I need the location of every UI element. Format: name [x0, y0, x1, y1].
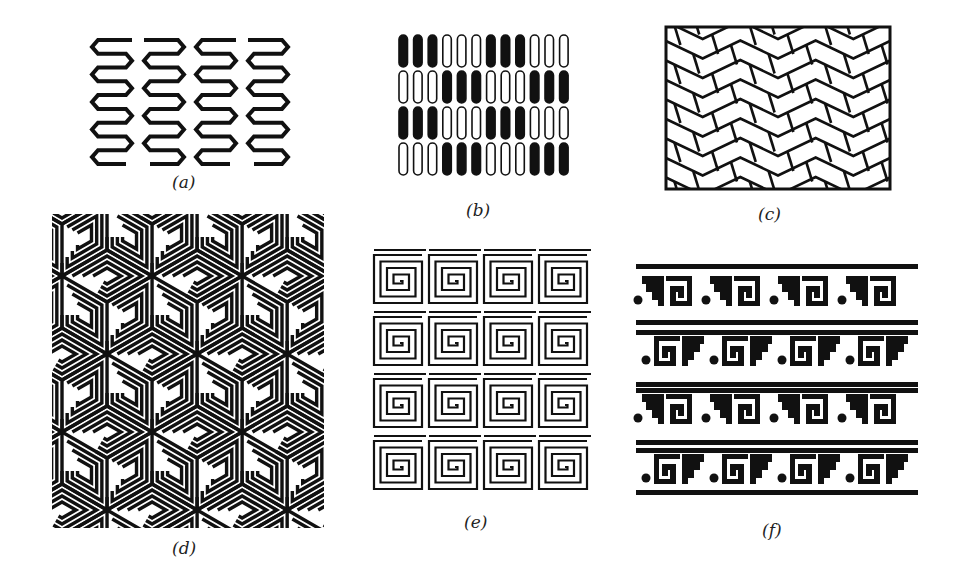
stepped-fret-motif — [642, 336, 705, 366]
panel-b — [395, 33, 575, 183]
spiral-cube — [62, 406, 152, 510]
filled-bar — [516, 107, 525, 139]
stepped-fret-motif — [634, 276, 693, 306]
zigzag-strips-figure — [88, 38, 298, 168]
filled-bar — [472, 71, 481, 103]
square-spiral-tile — [484, 250, 536, 303]
stepped-fret-motif — [838, 276, 897, 306]
caption-f: (f) — [762, 520, 782, 540]
filled-bar — [501, 107, 510, 139]
filled-bar — [414, 35, 423, 67]
square-spiral-tile — [429, 436, 481, 489]
panel-d — [52, 214, 324, 528]
square-spiral-tile — [539, 312, 591, 365]
filled-bar — [414, 107, 423, 139]
panel-f — [636, 264, 920, 496]
filled-bar — [428, 35, 437, 67]
stepped-fret-motif — [778, 454, 841, 484]
stepped-fret-motif — [710, 336, 773, 366]
square-spiral-grid-figure — [372, 248, 594, 498]
filled-bar — [443, 71, 452, 103]
square-spiral-tile — [429, 250, 481, 303]
stepped-fret-frieze-figure — [636, 264, 920, 496]
outlined-bar — [487, 143, 496, 175]
square-spiral-tile — [374, 436, 426, 489]
filled-bar — [457, 71, 466, 103]
filled-bar — [399, 107, 408, 139]
outlined-bar — [457, 107, 466, 139]
spiral-cube — [197, 328, 287, 432]
filled-bar — [545, 143, 554, 175]
spiral-cube — [152, 406, 242, 510]
spiral-cube — [152, 250, 242, 354]
stepped-fret-motif — [634, 394, 693, 424]
spiral-cube — [107, 328, 197, 432]
filled-bar — [457, 143, 466, 175]
filled-bar — [560, 71, 569, 103]
outlined-bar — [560, 35, 569, 67]
stepped-fret-motif — [770, 394, 829, 424]
filled-bar — [530, 143, 539, 175]
stepped-fret-motif — [778, 336, 841, 366]
caption-a: (a) — [172, 172, 195, 192]
bar-grid-figure — [395, 33, 575, 183]
caption-b: (b) — [466, 200, 490, 220]
spiral-cube — [197, 214, 287, 276]
outlined-bar — [501, 71, 510, 103]
stepped-fret-motif — [846, 336, 909, 366]
square-spiral-tile — [374, 374, 426, 427]
outlined-bar — [487, 71, 496, 103]
stepped-fret-motif — [642, 454, 705, 484]
stepped-fret-motif — [838, 394, 897, 424]
outlined-bar — [516, 143, 525, 175]
outlined-bar — [457, 35, 466, 67]
filled-bar — [560, 143, 569, 175]
outlined-bar — [545, 35, 554, 67]
outlined-bar — [414, 143, 423, 175]
caption-e: (e) — [464, 512, 487, 532]
stepped-fret-motif — [770, 276, 829, 306]
outlined-bar — [414, 71, 423, 103]
panel-e — [372, 248, 594, 498]
outlined-bar — [516, 71, 525, 103]
spiral-cube — [52, 484, 107, 528]
stepped-fret-motif — [710, 454, 773, 484]
spiral-cube-figure — [52, 214, 324, 528]
filled-bar — [530, 71, 539, 103]
spiral-cube — [107, 214, 197, 276]
panel-a — [88, 38, 298, 168]
outlined-bar — [443, 35, 452, 67]
filled-bar — [501, 35, 510, 67]
filled-bar — [487, 107, 496, 139]
square-spiral-tile — [539, 250, 591, 303]
stepped-fret-motif — [846, 454, 909, 484]
outlined-bar — [399, 143, 408, 175]
outlined-bar — [399, 71, 408, 103]
outlined-bar — [472, 107, 481, 139]
spiral-cube — [62, 250, 152, 354]
outlined-bar — [428, 71, 437, 103]
filled-bar — [443, 143, 452, 175]
square-spiral-tile — [539, 436, 591, 489]
filled-bar — [428, 107, 437, 139]
square-spiral-tile — [374, 250, 426, 303]
filled-bar — [472, 143, 481, 175]
outlined-bar — [530, 107, 539, 139]
square-spiral-tile — [374, 312, 426, 365]
filled-bar — [545, 71, 554, 103]
stepped-fret-motif — [702, 276, 761, 306]
square-spiral-tile — [484, 374, 536, 427]
panel-c — [665, 26, 891, 190]
caption-c: (c) — [758, 204, 781, 224]
filled-bar — [487, 35, 496, 67]
outlined-bar — [472, 35, 481, 67]
zigzag-strip — [144, 40, 184, 164]
outlined-bar — [443, 107, 452, 139]
zigzag-strip — [248, 40, 288, 164]
square-spiral-tile — [429, 312, 481, 365]
square-spiral-tile — [484, 312, 536, 365]
caption-d: (d) — [172, 538, 196, 558]
outlined-bar — [501, 143, 510, 175]
filled-bar — [516, 35, 525, 67]
herringbone-brick-figure — [665, 26, 891, 190]
